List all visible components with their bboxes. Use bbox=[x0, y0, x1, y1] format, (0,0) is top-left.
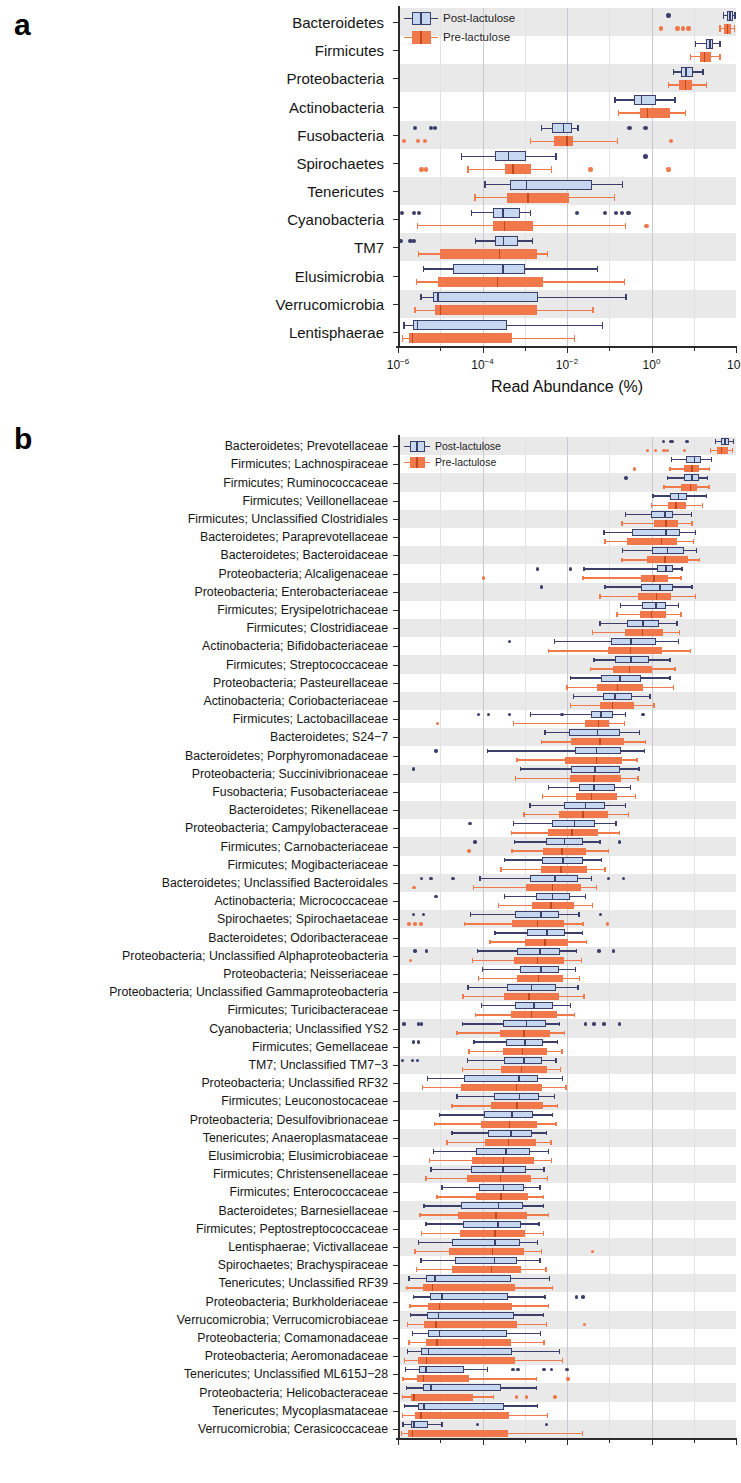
y-tick bbox=[393, 247, 398, 248]
y-tick bbox=[393, 683, 398, 684]
y-tick bbox=[393, 537, 398, 538]
category-label: Bacteroidetes; Paraprevotellaceae bbox=[200, 530, 388, 544]
box bbox=[632, 529, 680, 536]
whisker-cap bbox=[513, 721, 514, 725]
box bbox=[543, 848, 586, 855]
whisker-cap bbox=[434, 1122, 435, 1126]
whisker-cap bbox=[562, 1358, 563, 1362]
box bbox=[625, 629, 663, 636]
category-label: Proteobacteria; Campylobacteraceae bbox=[185, 821, 388, 835]
box bbox=[461, 1084, 543, 1091]
y-tick bbox=[393, 1156, 398, 1157]
panel-letter-a: a bbox=[14, 10, 31, 40]
whisker-cap bbox=[482, 967, 483, 971]
median-line bbox=[494, 1230, 495, 1237]
category-label: Elusimicrobia bbox=[295, 267, 384, 284]
box bbox=[461, 1202, 523, 1209]
whisker-cap bbox=[599, 594, 600, 598]
whisker-cap bbox=[709, 467, 710, 471]
median-line bbox=[505, 1148, 507, 1155]
whisker-cap bbox=[462, 1067, 463, 1071]
box bbox=[493, 221, 533, 231]
whisker-cap bbox=[649, 694, 650, 698]
box bbox=[525, 939, 568, 946]
outlier-point bbox=[606, 922, 609, 925]
whisker-cap bbox=[592, 903, 593, 907]
whisker-cap bbox=[628, 812, 629, 816]
median-line bbox=[571, 829, 572, 836]
box bbox=[423, 1384, 501, 1391]
legend-b: Post-lactulose Pre-lactulose bbox=[404, 439, 501, 471]
whisker-cap bbox=[403, 322, 404, 328]
whisker-cap bbox=[695, 530, 696, 534]
median-line bbox=[591, 793, 592, 800]
median-line bbox=[653, 575, 654, 582]
median-line bbox=[665, 520, 666, 527]
whisker-cap bbox=[578, 912, 579, 916]
median-line bbox=[729, 11, 731, 21]
whisker-cap bbox=[691, 521, 692, 525]
legend-entry-post: Post-lactulose bbox=[404, 10, 515, 26]
y-tick bbox=[393, 135, 398, 136]
whisker-cap bbox=[645, 740, 646, 744]
category-label: Firmicutes; Clostridiaceae bbox=[247, 621, 388, 635]
whisker-cap bbox=[582, 576, 583, 580]
box bbox=[514, 957, 564, 964]
whisker-cap bbox=[494, 931, 495, 935]
y-tick bbox=[393, 1393, 398, 1394]
whisker-cap bbox=[680, 612, 681, 616]
category-label: Tenericutes; Anaeroplasmataceae bbox=[203, 1131, 388, 1145]
category-label: Bacteroidetes; Bacteroidaceae bbox=[221, 548, 388, 562]
outlier-point bbox=[659, 26, 663, 30]
box bbox=[600, 702, 634, 709]
median-line bbox=[704, 52, 705, 62]
box bbox=[641, 575, 668, 582]
x-tick bbox=[736, 1440, 737, 1445]
category-label: Bacteroidetes bbox=[292, 14, 384, 31]
category-label: Spirochaetes; Spirochaetaceae bbox=[217, 912, 388, 926]
whisker-cap bbox=[624, 721, 625, 725]
x-tick bbox=[398, 348, 399, 353]
box bbox=[565, 757, 622, 764]
median-line bbox=[498, 1202, 500, 1209]
y-tick bbox=[393, 1138, 398, 1139]
category-label: Spirochaetes bbox=[296, 154, 384, 171]
whisker-cap bbox=[696, 548, 697, 552]
whisker-cap bbox=[674, 97, 675, 103]
outlier-point bbox=[412, 886, 415, 889]
whisker-cap bbox=[620, 603, 621, 607]
median-line bbox=[630, 647, 631, 654]
box bbox=[571, 738, 623, 745]
outlier-point bbox=[511, 1368, 514, 1371]
outlier-point bbox=[515, 1395, 518, 1398]
box bbox=[411, 1394, 474, 1401]
whisker-cap bbox=[604, 867, 605, 871]
panel-b: b Bacteroidetes; PrevotellaceaeFirmicute… bbox=[0, 415, 741, 1483]
box bbox=[438, 277, 544, 287]
category-label: Firmicutes; Mogibacteriaceae bbox=[227, 858, 388, 872]
outlier-point bbox=[566, 1377, 569, 1380]
whisker-cap bbox=[570, 676, 571, 680]
y-tick bbox=[393, 1356, 398, 1357]
legend-entry-post: Post-lactulose bbox=[404, 439, 501, 453]
legend-swatch-post-icon bbox=[404, 441, 430, 452]
whisker-cap bbox=[719, 25, 720, 31]
outlier-point bbox=[412, 1040, 415, 1043]
outlier-point bbox=[424, 167, 428, 171]
whisker-cap bbox=[590, 667, 591, 671]
whisker-cap bbox=[439, 1113, 440, 1117]
whisker-cap bbox=[690, 54, 691, 60]
median-line bbox=[685, 67, 687, 77]
whisker-cap bbox=[436, 1195, 437, 1199]
whisker-cap bbox=[574, 1013, 575, 1017]
box bbox=[471, 1166, 527, 1173]
whisker-cap bbox=[451, 1131, 452, 1135]
whisker-cap bbox=[555, 1122, 556, 1126]
whisker-cap bbox=[537, 1240, 538, 1244]
y-tick bbox=[393, 191, 398, 192]
whisker-cap bbox=[624, 279, 625, 285]
whisker-cap bbox=[402, 1377, 403, 1381]
x-tick bbox=[525, 1440, 526, 1443]
whisker-cap bbox=[702, 69, 703, 75]
category-label: Fusobacteria; Fusobacteriaceae bbox=[212, 785, 388, 799]
